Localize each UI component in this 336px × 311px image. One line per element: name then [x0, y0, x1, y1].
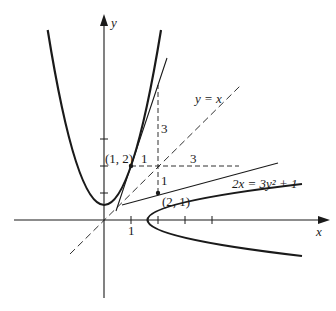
x-axis-label: x: [315, 224, 322, 239]
y-axis-label: y: [109, 15, 117, 30]
triangle1-rise-label: 3: [161, 121, 168, 136]
y-axis-arrow-icon: [100, 14, 108, 26]
x-axis-arrow-icon: [318, 216, 330, 224]
point-2-1-label: (2, 1): [162, 194, 190, 209]
triangle2-run-label: 3: [190, 151, 197, 166]
triangle1-run-label: 1: [141, 151, 148, 166]
x-tick-label-1: 1: [128, 223, 135, 238]
point-2-1: [156, 191, 160, 195]
axes: [14, 22, 322, 298]
diagonal-label: y = x: [193, 91, 222, 106]
tangent-line-at-1-2: [116, 58, 167, 211]
triangle2-rise-label: 1: [161, 173, 168, 188]
inverse-functions-diagram: y x 1 y = x 2x = 3y² + 1 (1, 2) (2, 1) 1…: [0, 0, 336, 311]
point-1-2-label: (1, 2): [105, 151, 133, 166]
parabola-equation-label: 2x = 3y² + 1: [232, 176, 297, 191]
